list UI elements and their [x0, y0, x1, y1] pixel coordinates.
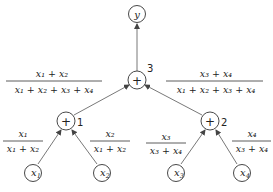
svg-text:x₄: x₄	[247, 128, 256, 139]
svg-text:x₁ + x₂ + x₃ + x₄: x₁ + x₂ + x₃ + x₄	[177, 84, 256, 95]
sum-node-1: + 1	[57, 112, 83, 130]
weight-x1-to-sum1: x₁ x₁ + x₂	[3, 128, 43, 154]
svg-text:x₃ + x₄: x₃ + x₄	[236, 143, 269, 154]
svg-text:x₃: x₃	[161, 131, 170, 142]
input-node-x4: x4	[234, 165, 251, 182]
input-node-x3: x3	[168, 165, 185, 182]
svg-text:x₁: x₁	[18, 128, 27, 139]
edge-x4-to-sum2	[216, 130, 237, 164]
weight-x2-to-sum1: x₂ x₁ + x₂	[90, 128, 130, 154]
svg-text:x₁ + x₂ + x₃ + x₄: x₁ + x₂ + x₃ + x₄	[15, 84, 94, 95]
output-node-y: y	[129, 6, 146, 23]
svg-text:x₁ + x₂: x₁ + x₂	[7, 143, 40, 154]
computation-tree-diagram: y + 3 + 1 + 2 x1 x2 x3 x4 x₁ + x₂ x₁ + x…	[0, 0, 273, 192]
weight-x4-to-sum2: x₄ x₃ + x₄	[232, 128, 271, 154]
svg-text:x₃ + x₄: x₃ + x₄	[200, 68, 233, 79]
svg-text:y: y	[133, 9, 140, 20]
node-index-label: 2	[221, 117, 227, 128]
svg-text:x₁ + x₂: x₁ + x₂	[94, 143, 127, 154]
node-index-label: 3	[147, 63, 153, 74]
svg-text:+: +	[132, 74, 142, 88]
weight-x3-to-sum2: x₃ x₃ + x₄	[146, 131, 186, 156]
weight-sum2-to-sum3: x₃ + x₄ x₁ + x₂ + x₃ + x₄	[166, 68, 263, 95]
svg-text:+: +	[61, 115, 71, 129]
svg-text:x₃ + x₄: x₃ + x₄	[150, 145, 183, 156]
edge-x3-to-sum2	[181, 130, 205, 164]
svg-text:+: +	[205, 115, 215, 129]
weight-sum1-to-sum3: x₁ + x₂ x₁ + x₂ + x₃ + x₄	[6, 68, 102, 95]
svg-text:x₁ + x₂: x₁ + x₂	[36, 68, 69, 79]
sum-node-2: + 2	[201, 112, 227, 130]
input-node-x2: x2	[94, 165, 111, 182]
sum-node-3: + 3	[128, 63, 153, 89]
svg-text:x₂: x₂	[105, 128, 114, 139]
node-index-label: 1	[77, 117, 83, 128]
edge-x1-to-sum1	[38, 130, 61, 164]
input-node-x1: x1	[25, 165, 42, 182]
